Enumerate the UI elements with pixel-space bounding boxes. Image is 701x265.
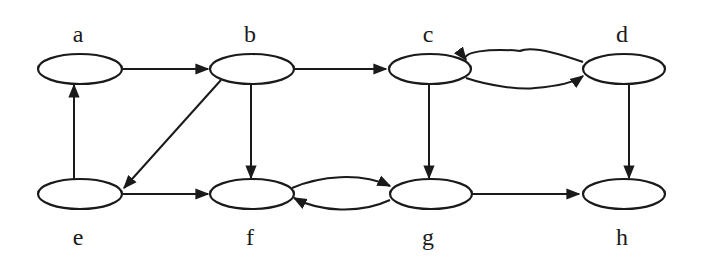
edges — [74, 49, 629, 209]
edge-c-to-d — [466, 76, 583, 89]
node-a-label: a — [73, 21, 84, 47]
node-b-ellipse — [210, 54, 294, 84]
node-e-ellipse — [38, 179, 122, 209]
node-g-label: g — [422, 224, 434, 250]
node-d-label: d — [616, 21, 628, 47]
node-e: e — [38, 179, 122, 250]
edge-b-to-e — [124, 80, 221, 188]
node-f-label: f — [246, 224, 254, 250]
node-e-label: e — [73, 224, 84, 250]
edge-g-to-f — [294, 198, 390, 210]
node-b: b — [210, 21, 294, 84]
node-d: d — [583, 21, 665, 84]
node-a: a — [38, 21, 122, 84]
node-c-ellipse — [389, 54, 471, 84]
node-g: g — [390, 179, 472, 250]
node-h-ellipse — [583, 179, 665, 209]
node-g-ellipse — [390, 179, 472, 209]
node-a-ellipse — [38, 54, 122, 84]
directed-graph: a b c d e f g h — [0, 0, 701, 265]
node-h-label: h — [616, 224, 628, 250]
edge-f-to-g — [292, 177, 390, 188]
node-d-ellipse — [583, 54, 665, 84]
node-h: h — [583, 179, 665, 250]
nodes: a b c d e f g h — [38, 21, 665, 250]
edge-d-to-c — [465, 49, 583, 62]
node-f-ellipse — [210, 179, 294, 209]
node-f: f — [210, 179, 294, 250]
node-b-label: b — [244, 21, 256, 47]
node-c-label: c — [423, 21, 434, 47]
node-c: c — [389, 21, 471, 84]
